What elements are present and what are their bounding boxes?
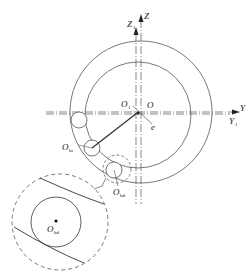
obi-sub: bi <box>69 148 74 153</box>
magnified-ball-center <box>54 219 57 222</box>
z-axis-arrow <box>139 14 144 22</box>
magnify-connector <box>94 178 106 189</box>
bearing-diagram: Z Z 1 Y Y 1 O O 1 e O bi O bd O bd <box>0 0 249 277</box>
obd-zoom-label: O <box>47 224 54 234</box>
obd-sub: bd <box>120 193 126 198</box>
obi-label: O <box>62 142 69 152</box>
inner-race-circle <box>85 62 191 168</box>
obd-label: O <box>113 187 120 197</box>
radius-line <box>92 113 137 148</box>
y-axis-label: Y <box>240 103 246 113</box>
o-label: O <box>147 100 154 110</box>
ball-left <box>71 112 87 128</box>
obd-zoom-sub: bd <box>54 230 60 235</box>
magnified-dashed-circle <box>12 174 108 270</box>
o1-sub: 1 <box>128 105 131 110</box>
magnified-outer-race-arc <box>40 178 104 204</box>
o1-label: O <box>121 99 128 109</box>
e-label: e <box>151 122 155 132</box>
z-axis-label: Z <box>144 11 150 21</box>
y1-axis-sub: 1 <box>235 122 238 127</box>
y-axis-arrow <box>232 110 240 115</box>
